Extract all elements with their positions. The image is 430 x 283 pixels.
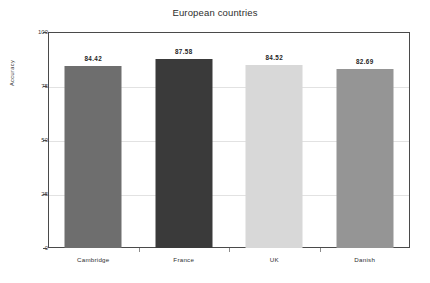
x-axis: CambridgeFranceUKDanish [48,248,410,278]
x-category-label: Cambridge [77,256,110,263]
x-tick-mark [229,248,230,252]
bar-value-label: 84.42 [84,55,102,62]
bar-group: 82.69 [320,32,411,248]
bar-value-label: 84.52 [265,54,283,61]
bar [246,65,303,248]
bar-group: 84.52 [229,32,320,248]
x-category-label: UK [270,256,279,263]
chart-title: European countries [0,7,430,18]
y-tick-mark [43,140,47,141]
bar-group: 84.42 [48,32,139,248]
y-axis: 0255075100 [14,32,48,248]
y-tick-mark [43,248,47,249]
bar [336,69,393,248]
y-tick-mark [43,86,47,87]
y-tick-mark [43,194,47,195]
bar-group: 87.58 [139,32,230,248]
bar-chart-figure: European countries Accuracy 0255075100 8… [0,0,430,283]
bar-value-label: 87.58 [175,48,193,55]
x-category-label: Danish [354,256,375,263]
x-tick-mark [320,248,321,252]
x-tick-mark [139,248,140,252]
bars-layer: 84.4287.5884.5282.69 [48,32,410,248]
bar [65,66,122,248]
y-tick-mark [43,32,47,33]
bar [155,59,212,248]
x-category-label: France [173,256,194,263]
bar-value-label: 82.69 [356,58,374,65]
